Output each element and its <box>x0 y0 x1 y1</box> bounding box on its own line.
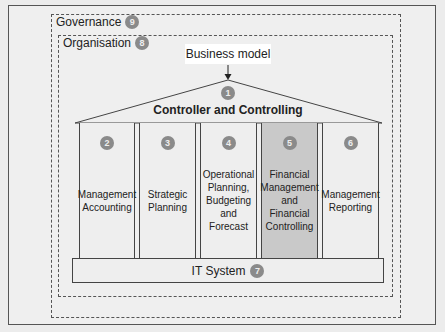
it-system-foundation: IT System 7 <box>72 258 384 283</box>
pillar-label: Management Reporting <box>323 163 378 238</box>
pillar-label: Management Accounting <box>80 163 134 238</box>
pillar-strategic-planning: 3 Strategic Planning <box>139 123 196 258</box>
pillar-label: Financial Management and Financial Contr… <box>262 163 317 238</box>
pillar-badge: 6 <box>344 136 358 150</box>
roof-badge: 1 <box>221 86 235 100</box>
pillar-badge: 5 <box>283 136 297 150</box>
pillar-label: Operational Planning, Budgeting and Fore… <box>201 163 256 238</box>
pillar-label: Strategic Planning <box>140 163 195 238</box>
arrow-down-icon <box>225 74 232 80</box>
roof-title: Controller and Controlling <box>100 103 356 117</box>
pillar-badge: 4 <box>222 136 236 150</box>
pillar-financial-management: 5 Financial Management and Financial Con… <box>261 123 318 258</box>
pillar-management-accounting: 2 Management Accounting <box>79 123 135 258</box>
it-system-badge: 7 <box>250 264 264 278</box>
pillar-operational-planning: 4 Operational Planning, Budgeting and Fo… <box>200 123 257 258</box>
pillar-badge: 3 <box>161 136 175 150</box>
pillar-management-reporting: 6 Management Reporting <box>322 123 379 258</box>
it-system-label: IT System <box>192 264 246 278</box>
pillar-badge: 2 <box>100 136 114 150</box>
